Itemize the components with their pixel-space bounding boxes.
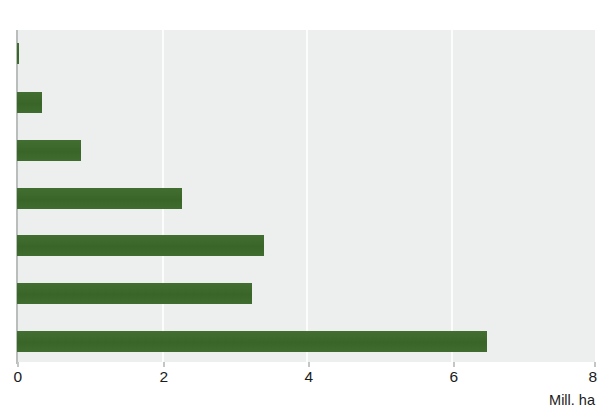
x-tick-label-0: 0 (14, 368, 23, 386)
bar-row[interactable] (17, 92, 42, 113)
tick-mark-4 (308, 362, 310, 367)
bar-row[interactable] (17, 283, 252, 304)
tick-mark-0 (17, 362, 19, 367)
tick-mark-2 (163, 362, 165, 367)
bar-row[interactable] (17, 140, 81, 161)
bar-row[interactable] (17, 188, 182, 209)
x-tick-label-4: 4 (305, 368, 314, 386)
bar-3[interactable] (17, 140, 81, 161)
x-axis: 0 2 4 6 8 Mill. ha (0, 362, 604, 416)
gridline-6 (451, 30, 453, 362)
bar-1[interactable] (17, 43, 19, 64)
x-tick-label-6: 6 (450, 368, 459, 386)
bar-row[interactable] (17, 235, 264, 256)
bar-7[interactable] (17, 331, 487, 352)
bar-row[interactable] (17, 331, 487, 352)
tick-mark-6 (453, 362, 455, 367)
gridline-4 (306, 30, 308, 362)
x-tick-label-8: 8 (589, 368, 598, 386)
x-tick-label-2: 2 (160, 368, 169, 386)
bar-5[interactable] (17, 235, 264, 256)
bar-4[interactable] (17, 188, 182, 209)
bar-chart-figure: 0 2 4 6 8 Mill. ha (0, 0, 604, 416)
bar-2[interactable] (17, 92, 42, 113)
bar-6[interactable] (17, 283, 252, 304)
bar-row[interactable] (17, 43, 19, 64)
axis-unit-label: Mill. ha (549, 392, 595, 408)
tick-mark-8 (594, 362, 596, 367)
